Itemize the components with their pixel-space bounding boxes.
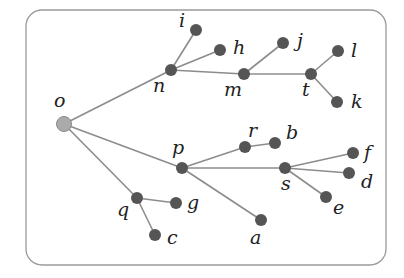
node-label-c: c [167,226,178,248]
edge-p-r [182,147,245,168]
edge-o-p [64,124,182,168]
edge-m-j [244,43,283,74]
node-l [332,45,344,57]
node-label-l: l [351,39,357,61]
node-a [255,214,267,226]
node-b [269,137,281,149]
node-g [170,197,182,209]
node-label-g: g [187,191,199,213]
node-label-n: n [153,74,165,96]
node-f [347,147,359,159]
node-r [239,141,251,153]
node-e [320,191,332,203]
edge-s-d [285,168,349,173]
node-p [176,162,188,174]
node-label-s: s [281,172,291,194]
node-label-f: f [362,141,374,163]
node-d [343,167,355,179]
node-label-k: k [351,90,363,112]
edges-layer [64,30,353,235]
node-label-m: m [224,78,242,100]
edge-n-m [171,70,244,74]
labels-layer: onihmjtlkprbsfdeaqgc [54,9,374,248]
edge-s-f [285,153,353,168]
diagram-frame [26,10,386,265]
node-label-t: t [302,78,310,100]
node-q [131,192,143,204]
node-label-e: e [333,196,344,218]
node-c [149,229,161,241]
node-label-o: o [54,89,65,111]
nodes-layer [57,24,360,241]
edge-s-e [285,168,326,197]
node-label-d: d [361,170,373,192]
node-label-p: p [172,136,184,158]
edge-n-h [171,50,220,70]
node-j [277,37,289,49]
node-label-i: i [179,9,185,31]
edge-o-q [64,124,137,198]
node-k [331,96,343,108]
node-n [165,64,177,76]
node-label-r: r [248,119,259,141]
node-label-a: a [250,226,261,248]
edge-n-i [171,30,196,70]
node-label-b: b [286,121,298,143]
node-label-h: h [233,36,245,58]
tree-diagram: onihmjtlkprbsfdeaqgc [0,0,404,278]
node-h [214,44,226,56]
edge-q-c [137,198,155,235]
node-i [190,24,202,36]
node-label-q: q [117,198,129,220]
node-label-j: j [293,29,303,51]
node-o [57,117,72,132]
